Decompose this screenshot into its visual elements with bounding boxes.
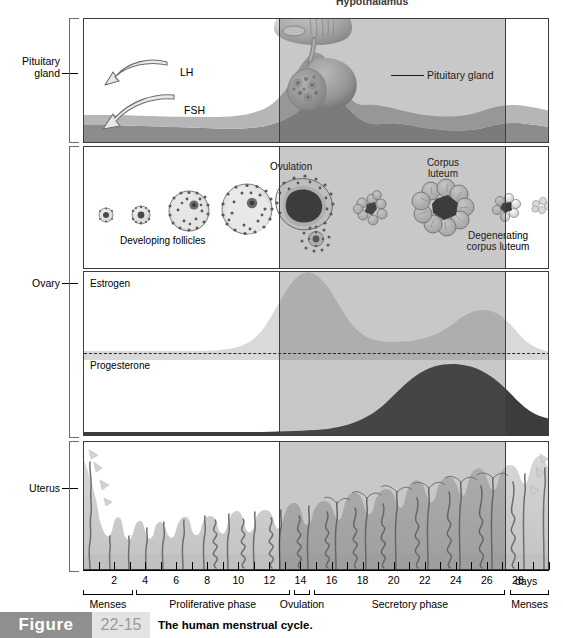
divider-ovulation-pituitary xyxy=(279,19,280,143)
caption-title: The human menstrual cycle. xyxy=(158,612,313,638)
panel-pituitary: LH FSH Pituitary gland xyxy=(83,18,549,143)
phase-bracket-menses-early xyxy=(83,590,133,595)
axis-day-label: 20 xyxy=(378,574,410,586)
axis-tick xyxy=(238,562,239,570)
progesterone-curve xyxy=(84,353,549,436)
panel-hormones: Estrogen Progesterone xyxy=(83,271,549,436)
corpus-luteum-degenerating xyxy=(492,193,520,221)
axis-tick xyxy=(161,562,162,570)
label-lh: LH xyxy=(180,66,193,78)
degenerating-line2: corpus luteum xyxy=(467,241,530,252)
phase-bracket-menses-late xyxy=(510,590,549,595)
phase-label-menses-early: Menses xyxy=(48,598,168,610)
axis-tick xyxy=(409,562,410,570)
corpus-luteum-line1: Corpus xyxy=(427,157,459,168)
axis-tick xyxy=(99,562,100,570)
corpus-luteum-early xyxy=(353,191,387,225)
phase-label-secretory: Secretory phase xyxy=(350,598,470,610)
side-label-pituitary-gland: Pituitary gland xyxy=(8,55,60,79)
bracket-uterus xyxy=(69,441,79,572)
divider-menses-ovary xyxy=(505,147,506,269)
phase-bracket-secretory xyxy=(314,590,505,595)
divider-ovulation-hormones xyxy=(279,272,280,436)
follicle-primordial xyxy=(99,208,113,223)
axis-day-label: 10 xyxy=(222,574,254,586)
axis-day-label: 16 xyxy=(316,574,348,586)
axis-day-label: 26 xyxy=(471,574,503,586)
axis-baseline xyxy=(83,570,549,571)
caption-figure-number: 22-15 xyxy=(92,612,150,638)
follicle-secondary xyxy=(169,191,210,232)
figure-container: Pituitary gland Ovary Uterus xyxy=(0,0,563,638)
axis-tick xyxy=(145,562,146,570)
axis-tick xyxy=(378,562,379,570)
divider-menses-pituitary xyxy=(505,19,506,143)
figure-caption: Figure 22-15 The human menstrual cycle. xyxy=(0,612,563,638)
axis-tick xyxy=(207,562,208,570)
axis-tick xyxy=(518,562,519,570)
caption-figure-word: Figure xyxy=(0,612,92,638)
side-label-uterus: Uterus xyxy=(8,482,60,494)
axis-day-label: 18 xyxy=(347,574,379,586)
phase-bracket-proliferative xyxy=(136,590,290,595)
axis-day-label: 14 xyxy=(284,574,316,586)
axis-tick xyxy=(223,562,224,570)
leader-pituitary-gland-callout xyxy=(391,75,424,76)
axis-tick xyxy=(285,562,286,570)
axis-day-label: 4 xyxy=(129,574,161,586)
axis-tick xyxy=(440,562,441,570)
axis-day-label: 6 xyxy=(160,574,192,586)
label-ovulation-ovary: Ovulation xyxy=(270,161,312,172)
follicle-antral xyxy=(221,184,273,235)
lh-arrow-icon xyxy=(101,59,173,95)
axis-tick xyxy=(502,562,503,570)
degenerating-line1: Degenerating xyxy=(468,230,528,241)
panel-ovary-follicles: Developing follicles Ovulation Corpus lu… xyxy=(83,146,549,269)
axis-tick xyxy=(533,562,534,570)
divider-menses-uterus xyxy=(505,442,506,570)
axis-tick xyxy=(332,562,333,570)
estrogen-curve xyxy=(84,272,549,360)
axis-tick xyxy=(254,562,255,570)
divider-menses-hormones xyxy=(505,272,506,436)
side-label-ovary-text: Ovary xyxy=(32,277,60,289)
axis-day-label: 12 xyxy=(253,574,285,586)
divider-ovulation-uterus xyxy=(279,442,280,570)
axis-tick xyxy=(347,562,348,570)
label-estrogen: Estrogen xyxy=(90,278,130,289)
bracket-pituitary xyxy=(69,18,79,143)
label-progesterone: Progesterone xyxy=(90,360,150,371)
axis-tick xyxy=(363,562,364,570)
axis-tick xyxy=(130,562,131,570)
label-hypothalamus: Hypothalamus xyxy=(336,0,408,7)
label-degenerating-corpus-luteum: Degenerating corpus luteum xyxy=(446,230,549,252)
phase-label-menses-late: Menses xyxy=(470,598,563,610)
axis-tick xyxy=(425,562,426,570)
axis-tick xyxy=(471,562,472,570)
side-label-ovary: Ovary xyxy=(8,277,60,289)
axis-unit-label: days xyxy=(515,575,551,587)
side-label-pituitary-line1: Pituitary xyxy=(22,55,60,67)
endometrium-illustration xyxy=(84,442,549,570)
axis-day-label: 8 xyxy=(191,574,223,586)
divider-ovulation-ovary xyxy=(279,147,280,269)
axis-tick xyxy=(487,562,488,570)
axis-day-label: 2 xyxy=(98,574,130,586)
divider-estrogen-progesterone xyxy=(84,353,549,354)
corpus-albicans xyxy=(532,197,549,213)
label-corpus-luteum: Corpus luteum xyxy=(411,157,475,179)
corpus-luteum-mature xyxy=(412,179,474,236)
bracket-ovary xyxy=(69,146,79,438)
label-pituitary-gland-callout: Pituitary gland xyxy=(427,69,494,81)
phase-bracket-ovulation xyxy=(294,590,310,595)
label-fsh: FSH xyxy=(184,104,205,116)
side-label-uterus-text: Uterus xyxy=(29,482,60,494)
pituitary-gland-illustration xyxy=(254,18,404,127)
label-developing-follicles: Developing follicles xyxy=(120,235,206,246)
follicle-ovulating xyxy=(276,174,335,252)
axis-tick xyxy=(456,562,457,570)
axis-tick xyxy=(394,562,395,570)
axis-tick xyxy=(316,562,317,570)
axis-tick xyxy=(176,562,177,570)
panel-uterus xyxy=(83,441,549,570)
